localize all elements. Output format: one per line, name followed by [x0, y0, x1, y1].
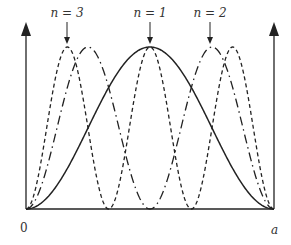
label-n2: n = 2 — [193, 6, 226, 20]
label-a: a — [271, 223, 278, 237]
wavefunction-diagram: n = 3 n = 1 n = 2 0 a — [0, 0, 291, 245]
curve-n2 — [26, 47, 274, 209]
n2-arrow-icon — [207, 37, 213, 44]
curve-n1 — [26, 47, 274, 209]
n3-arrow-icon — [64, 37, 70, 44]
label-origin: 0 — [20, 221, 28, 235]
label-n1: n = 1 — [133, 6, 166, 20]
curve-n3 — [26, 47, 274, 209]
n1-arrow-icon — [147, 37, 153, 44]
left-axis-arrow-icon — [21, 22, 31, 36]
label-n3: n = 3 — [50, 6, 83, 20]
right-axis-arrow-icon — [269, 22, 279, 36]
